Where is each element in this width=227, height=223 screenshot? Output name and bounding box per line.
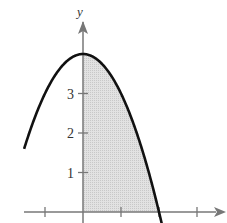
y-tick-label: 3	[67, 87, 74, 102]
area-under-curve-chart: 123 y	[0, 0, 227, 223]
y-axis-label: y	[75, 4, 83, 19]
y-tick-label: 1	[67, 166, 74, 181]
y-tick-label: 2	[67, 126, 74, 141]
shaded-area-region	[83, 54, 159, 212]
